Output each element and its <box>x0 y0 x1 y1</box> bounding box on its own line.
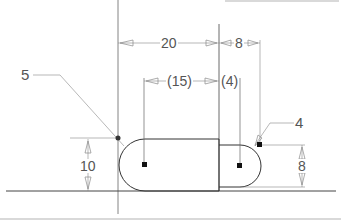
dimension-20[interactable]: 20 <box>160 36 178 50</box>
center-point <box>237 163 242 168</box>
large-slot-profile <box>119 139 219 191</box>
dimension-8-horizontal[interactable]: 8 <box>234 36 244 50</box>
dimension-8-vertical[interactable]: 8 <box>298 159 306 173</box>
dimension-15-reference[interactable]: (15) <box>166 74 193 88</box>
dimension-10-vertical[interactable]: 10 <box>80 159 96 173</box>
sketch-canvas[interactable]: 20 8 (15) (4) 10 8 5 4 <box>0 0 341 221</box>
center-point <box>142 162 147 167</box>
end-point <box>257 142 262 147</box>
radius-callout-4[interactable]: 4 <box>294 116 304 130</box>
sketch-geometry <box>0 0 341 221</box>
dimension-4-reference[interactable]: (4) <box>220 74 239 88</box>
radius-callout-5[interactable]: 5 <box>20 68 30 82</box>
